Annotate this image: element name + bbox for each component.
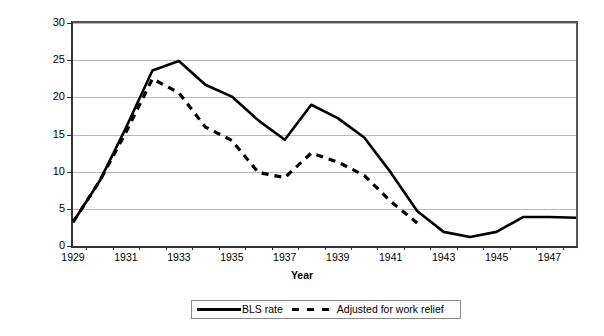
legend-item-adjusted-for-work-relief: Adjusted for work relief xyxy=(292,304,453,315)
x-axis-tick-label: 1945 xyxy=(477,252,517,263)
series-line-adjusted-for-work-relief xyxy=(73,79,417,223)
plot-area xyxy=(71,21,578,248)
series-lines xyxy=(73,23,576,246)
y-axis-tick-label: 30 xyxy=(33,17,65,28)
legend-label-bls-rate: BLS rate xyxy=(241,304,292,315)
x-axis-tick-label: 1937 xyxy=(265,252,305,263)
x-axis-tick-label: 1941 xyxy=(371,252,411,263)
x-axis-tick-label: 1931 xyxy=(106,252,146,263)
y-axis-tick-label: 5 xyxy=(33,203,65,214)
x-axis-tick-label: 1933 xyxy=(159,252,199,263)
x-axis-tick-label: 1939 xyxy=(318,252,358,263)
y-axis-tick-label: 0 xyxy=(33,240,65,251)
y-axis-tick-label: 10 xyxy=(33,166,65,177)
x-axis-tick-label: 1943 xyxy=(424,252,464,263)
legend-swatch-dashed-line xyxy=(292,308,336,311)
legend-item-bls-rate: BLS rate xyxy=(197,304,292,315)
y-axis-tick-label: 25 xyxy=(33,54,65,65)
y-axis-tick-label: 15 xyxy=(33,129,65,140)
chart-figure: Percent of civilian labor force 05101520… xyxy=(0,0,604,336)
series-line-bls-rate xyxy=(73,61,576,237)
legend-swatch-solid-line xyxy=(197,308,241,311)
x-axis-tick-label: 1929 xyxy=(53,252,93,263)
x-axis-tick-label: 1947 xyxy=(530,252,570,263)
x-axis-tick-label: 1935 xyxy=(212,252,252,263)
x-axis-title: Year xyxy=(0,269,604,281)
chart-legend: BLS rate Adjusted for work relief xyxy=(191,300,461,319)
legend-label-adjusted-for-work-relief: Adjusted for work relief xyxy=(336,304,453,315)
y-axis-tick-label: 20 xyxy=(33,91,65,102)
